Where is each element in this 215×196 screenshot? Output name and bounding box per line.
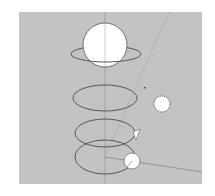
point-marker	[144, 87, 146, 89]
red-axis-line	[105, 157, 202, 172]
planet-with-ring[interactable]	[71, 23, 141, 67]
3d-viewport[interactable]	[19, 12, 202, 184]
scene-canvas[interactable]	[19, 12, 202, 184]
sun[interactable]	[154, 96, 170, 112]
sun-sphere[interactable]	[154, 96, 170, 112]
cone-marker[interactable]	[133, 129, 140, 140]
moon[interactable]	[124, 153, 140, 169]
